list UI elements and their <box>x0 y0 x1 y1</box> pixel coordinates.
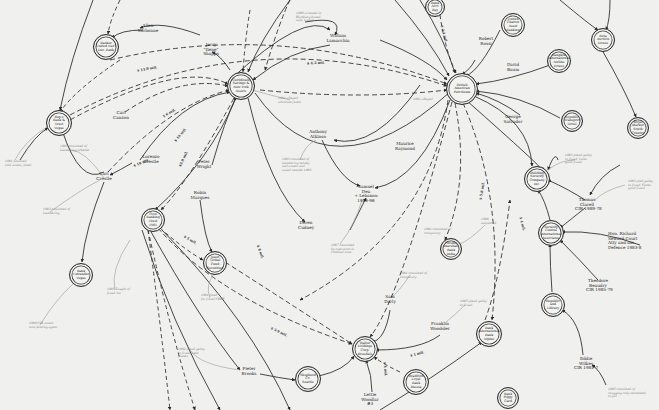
person-label[interactable]: William Lamacchia <box>326 34 350 43</box>
entity-node-label: Banker United Nat'l Dev. Bank <box>95 41 117 54</box>
entity-node-label: British American Petroleum <box>453 83 472 96</box>
entity-node[interactable]: Bank Ostrander Vegas <box>69 263 93 287</box>
person-label[interactable]: David Baum <box>501 63 525 72</box>
person-label[interactable]: Theodore Beaudry CIR 1985-79 <box>586 279 610 293</box>
person-label[interactable]: Lettie Woodlar #3 <box>358 393 382 407</box>
annotation-note: 1981 alleged advocate funds <box>278 97 301 104</box>
person-label[interactable]: Robert Rossi <box>474 37 498 46</box>
entity-node-label: Shepherd Co. Seattle <box>299 373 317 386</box>
annotation-note: 1988 CIA assets now fencing agent <box>29 322 57 329</box>
person-label[interactable]: Hon. Richard Seward Court Atty and ass. … <box>608 232 632 250</box>
person-label[interactable]: Maurice Raymond <box>393 142 417 151</box>
person-label[interactable]: George Salvador <box>501 115 525 124</box>
entity-node-label: Bank Acct Bay <box>430 1 440 14</box>
person-label[interactable]: Jerry "Gene" Shapps <box>199 43 223 57</box>
person-label[interactable]: Pieter Brooks <box>237 367 261 376</box>
entity-node[interactable]: Building Security Company Inc. <box>524 166 550 192</box>
entity-node-label: Bangkok International Airline House <box>547 53 570 69</box>
person-label[interactable]: Eddie Wilkes CIR 1981-7 <box>574 357 598 371</box>
person-label[interactable]: Samuel Dea + Lebanon 1986-96 <box>354 185 378 203</box>
entity-node[interactable]: Bank Piggy Card <box>497 387 519 409</box>
entity-node[interactable]: Walter Holdings Corp. Rosedale <box>352 336 378 362</box>
annotation-note: 1983 pled guilty to fraud. Faces good fr… <box>628 180 653 191</box>
entity-node[interactable]: United Charter Asset Banking <box>501 13 525 37</box>
entity-node[interactable]: Rep's Bank & Trust Vegas <box>46 110 72 136</box>
entity-node[interactable]: Bangkok International Airline House <box>547 49 571 73</box>
entity-node[interactable]: Asset Global Fund Securities <box>203 251 227 275</box>
annotation-note: 1981 fined for fraud CHEF <box>201 294 225 301</box>
person-label[interactable]: Franklin Woodsler <box>428 322 452 331</box>
annotation-note: 1985 convicted of snagging only sentence… <box>608 388 646 399</box>
entity-node[interactable]: Bradford Loyal Bank Russia <box>403 369 429 395</box>
entity-node-label: Rep's Bank & Trust Vegas <box>52 115 66 131</box>
person-label[interactable]: Carl Crestle <box>92 172 116 181</box>
person-label[interactable]: Sam Darly <box>378 295 402 304</box>
person-label[interactable]: Robin Marques <box>188 191 212 200</box>
entity-node-label: Royal Market South Country <box>630 120 645 136</box>
entity-node[interactable]: Republic Transport Hotel <box>561 110 583 132</box>
annotation-note: 1985 convicted of laundering scheme <box>60 145 89 152</box>
entity-node-label: Phoebe Marshall Bank India <box>443 241 459 257</box>
annotation-note: 1983 convicted of laundering money and a… <box>282 158 311 172</box>
entity-node[interactable]: Republic and Library <box>541 293 565 317</box>
entity-node-label: First Banking Trust 1981 <box>145 212 160 228</box>
entity-node[interactable]: Certificate Savings & New York Assets <box>227 72 255 100</box>
entity-node-label: Bradford Loyal Bank Russia <box>408 374 424 390</box>
person-label[interactable]: Peter Wright <box>192 160 216 169</box>
person-label[interactable]: Allen Sorbonne <box>136 24 160 33</box>
entity-node[interactable]: Beta Auction House <box>591 28 615 52</box>
entity-node-label: Asset Global Fund Securities <box>206 255 224 271</box>
annotation-note: 1981 alleged <box>413 98 433 102</box>
person-label[interactable]: Carl Canzon <box>109 111 133 120</box>
network-diagram: Banker United Nat'l Dev. BankRep's Bank … <box>0 0 659 410</box>
entity-node-label: Building Security Company Inc. <box>528 171 545 187</box>
annotation-note: 1981 convicted of conspiracy <box>400 272 427 279</box>
entity-node-label: Certificate Savings & New York Assets <box>231 78 250 94</box>
person-label[interactable]: Thomas Clarell CIR 1989-78 <box>575 198 599 212</box>
entity-node[interactable]: Phoebe Marshall Bank India <box>440 238 462 260</box>
annotation-note: 1983 convicted of laundering <box>43 208 70 215</box>
entity-node-label: Bank International Bank Alpine <box>477 326 500 342</box>
annotation-note: 1982 plead guilty to fraud; sent planes <box>178 348 205 359</box>
annotation-note: 1981 finalised sold assets, fined <box>5 160 31 167</box>
entity-node[interactable]: First Banking Trust 1981 <box>141 208 165 232</box>
entity-node[interactable]: Royal Market South Country <box>627 117 649 139</box>
annotation-note: 1983 plead guilty to fraud; faces good f… <box>565 154 592 165</box>
entity-node-label: Republic Transport Hotel <box>563 115 581 128</box>
entity-node-label: Bank Ostrander Vegas <box>72 269 90 282</box>
annotation-note: 1985 plead guilty to fraud <box>460 300 487 307</box>
entity-node-label: Bank Piggy Card <box>502 392 513 405</box>
annotation-note: 1987 convicted by operation in criminal … <box>331 244 354 255</box>
entity-node-label: Security Central International Associate… <box>539 225 562 241</box>
annotation-note: 1988 suspected <box>481 218 496 225</box>
annotation-note: 1985 Taught of fraud 1st <box>107 288 130 295</box>
entity-node-label: United Charter Asset Banking <box>505 17 520 33</box>
entity-node[interactable]: British American Petroleum <box>446 73 478 105</box>
annotation-note: 1981 convicted of conspiracy <box>424 228 451 235</box>
annotation-note: 1986 arrested in Hamburg-based safe, tra… <box>296 12 321 23</box>
entity-node[interactable]: Shepherd Co. Seattle <box>295 366 321 392</box>
entity-node-label: Republic and Library <box>545 299 561 312</box>
person-label[interactable]: Deren Cudney <box>294 221 318 230</box>
entity-node[interactable]: Banker United Nat'l Dev. Bank <box>93 34 119 60</box>
entity-node-label: Walter Holdings Corp. Rosedale <box>357 341 374 357</box>
entity-node[interactable]: Security Central International Associate… <box>538 220 564 246</box>
entity-node[interactable]: Bank International Bank Alpine <box>476 321 502 347</box>
person-label[interactable]: Anthony Atkinso <box>306 130 330 139</box>
entity-node-label: Beta Auction House <box>596 34 610 47</box>
